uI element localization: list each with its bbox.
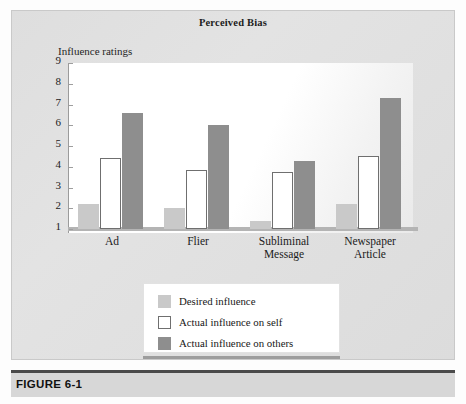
figure-page: Perceived Bias Influence ratings 1234567…	[0, 0, 466, 404]
legend-swatch-icon	[158, 295, 171, 308]
x-axis-category-label: Flier	[155, 235, 241, 248]
y-axis-tick-mark	[69, 188, 73, 189]
bar-desired-influence-newspaper-article	[336, 204, 357, 229]
chart-legend: Desired influenceActual influence on sel…	[143, 283, 340, 353]
x-axis-category-label-line: Article	[327, 248, 413, 261]
legend-item: Actual influence on self	[158, 313, 339, 331]
y-axis-tick-mark	[69, 146, 73, 147]
y-axis-tick-label: 2	[56, 200, 62, 211]
bar-actual-influence-on-self-subliminal-message	[272, 172, 293, 229]
figure-caption-label: FIGURE 6-1	[16, 378, 82, 390]
y-axis-tick-mark	[69, 125, 73, 126]
x-axis-category-label: NewspaperArticle	[327, 235, 413, 261]
y-axis-tick-mark	[69, 84, 73, 85]
bar-actual-influence-on-others-ad	[122, 113, 143, 229]
bar-actual-influence-on-self-newspaper-article	[358, 156, 379, 229]
legend-underline	[143, 356, 340, 359]
y-axis-tick-mark	[69, 63, 73, 64]
x-axis-category-label-line: Subliminal	[241, 235, 327, 248]
legend-label: Desired influence	[179, 295, 255, 307]
bar-actual-influence-on-self-flier	[186, 170, 207, 229]
bar-desired-influence-flier	[164, 208, 185, 229]
y-axis-tick-label: 5	[56, 138, 62, 149]
bar-desired-influence-subliminal-message	[250, 221, 271, 229]
bar-actual-influence-on-others-subliminal-message	[294, 161, 315, 229]
y-axis-tick-label: 9	[56, 55, 62, 66]
x-axis-category-label-line: Ad	[69, 235, 155, 248]
bar-actual-influence-on-others-newspaper-article	[380, 98, 401, 229]
x-axis-category-label: Ad	[69, 235, 155, 248]
figure-plate: Perceived Bias Influence ratings 1234567…	[11, 10, 455, 360]
y-axis-tick-mark	[69, 167, 73, 168]
x-axis-category-label-line: Newspaper	[327, 235, 413, 248]
legend-swatch-icon	[158, 337, 171, 350]
x-axis-category-label: SubliminalMessage	[241, 235, 327, 261]
legend-swatch-icon	[158, 316, 171, 329]
chart-title: Perceived Bias	[12, 17, 454, 28]
legend-label: Actual influence on self	[179, 316, 282, 328]
x-axis-category-label-line: Flier	[155, 235, 241, 248]
y-axis-tick-label: 7	[56, 97, 62, 108]
y-axis-title: Influence ratings	[58, 45, 132, 57]
y-axis-tick-label: 1	[56, 221, 62, 232]
y-axis-tick-mark	[69, 229, 73, 230]
y-axis-tick-label: 3	[56, 180, 62, 191]
legend-label: Actual influence on others	[179, 337, 293, 349]
bar-actual-influence-on-others-flier	[208, 125, 229, 229]
bar-actual-influence-on-self-ad	[100, 158, 121, 229]
y-axis-tick-mark	[69, 208, 73, 209]
y-axis-tick-mark	[69, 105, 73, 106]
x-axis-category-label-line: Message	[241, 248, 327, 261]
y-axis-tick-label: 4	[56, 159, 62, 170]
legend-item: Desired influence	[158, 292, 339, 310]
y-axis-tick-label: 6	[56, 117, 62, 128]
bar-desired-influence-ad	[78, 204, 99, 229]
chart-canvas: Perceived Bias Influence ratings 1234567…	[12, 11, 454, 359]
y-axis-tick-label: 8	[56, 76, 62, 87]
legend-item: Actual influence on others	[158, 334, 339, 352]
